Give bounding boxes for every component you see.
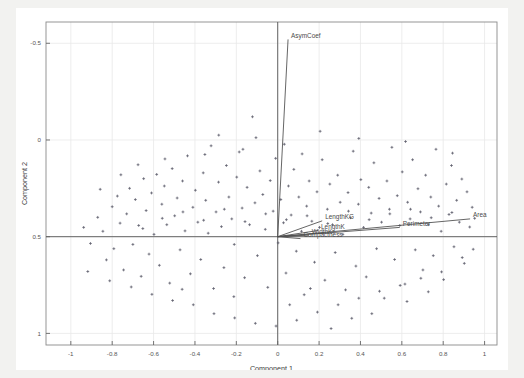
loading-vector-label: AsymCoef [291, 32, 321, 40]
plot-background [16, 8, 508, 370]
biplot-svg: AsymCoefLengthKGLengthKWidthKCompactness… [16, 8, 508, 370]
plot-canvas: AsymCoefLengthKGLengthKWidthKCompactness… [16, 8, 508, 370]
x-tick-label: 0.6 [398, 350, 407, 357]
x-tick-label: -0.2 [231, 350, 242, 357]
x-axis-title: Component 1 [250, 364, 293, 370]
x-tick-label: -0.8 [107, 350, 118, 357]
loading-vector-label: Perimeter [403, 220, 432, 227]
x-tick-label: 0.2 [315, 350, 324, 357]
loading-vector-label: LengthKG [325, 213, 354, 221]
y-tick-label: 0 [38, 136, 42, 143]
loading-vector-label: Compactness [303, 231, 342, 239]
y-axis-title: Component 2 [20, 162, 29, 205]
y-tick-label: -0.5 [30, 39, 41, 46]
loading-vector-label: Area [473, 211, 487, 218]
y-tick-label: 0.5 [32, 233, 41, 240]
x-tick-label: 1 [483, 350, 487, 357]
x-tick-label: 0.4 [356, 350, 365, 357]
x-tick-label: 0.8 [439, 350, 448, 357]
figure-container: AsymCoefLengthKGLengthKWidthKCompactness… [0, 0, 524, 378]
x-tick-label: -1 [68, 350, 74, 357]
y-tick-label: 1 [38, 330, 42, 337]
x-tick-label: 0 [276, 350, 280, 357]
x-tick-label: -0.6 [148, 350, 159, 357]
x-tick-label: -0.4 [190, 350, 201, 357]
